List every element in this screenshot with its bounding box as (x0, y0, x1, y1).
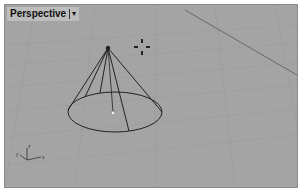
axis-label-z: z (28, 143, 31, 149)
x-axis-line (185, 10, 297, 75)
perspective-viewport[interactable]: z x y Perspective ▾ (4, 4, 298, 188)
scene-canvas[interactable]: z x y (5, 5, 297, 187)
viewport-title-tab[interactable]: Perspective ▾ (7, 7, 79, 21)
cone-base-point[interactable] (111, 111, 115, 115)
world-axes-icon (20, 148, 41, 160)
axis-label-y: y (16, 151, 19, 157)
construction-grid (5, 5, 297, 187)
viewport-title[interactable]: Perspective (10, 7, 66, 21)
gumball-icon[interactable] (134, 39, 150, 55)
chevron-down-icon[interactable]: ▾ (69, 9, 76, 19)
axis-label-x: x (42, 154, 45, 160)
